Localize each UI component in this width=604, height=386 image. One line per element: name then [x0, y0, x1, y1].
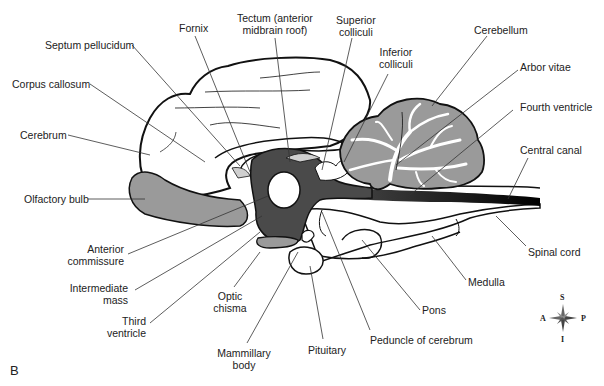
brainstem-outline: [300, 204, 540, 262]
label-olfactory-bulb: Olfactory bulb: [24, 193, 89, 205]
label-optic-chisma: Optic chisma: [212, 290, 248, 314]
pituitary: [289, 247, 323, 274]
label-mammillary-body: Mammillary body: [214, 347, 274, 371]
label-fornix: Fornix: [179, 22, 208, 34]
compass-a: A: [540, 314, 546, 323]
label-cerebellum: Cerebellum: [474, 24, 528, 36]
label-medulla: Medulla: [468, 276, 505, 288]
label-inferior-colliculi: Inferior colliculi: [379, 46, 413, 70]
compass-s: S: [560, 293, 564, 302]
compass-p: P: [581, 314, 586, 323]
label-superior-colliculi: Superior colliculi: [336, 14, 376, 38]
label-fourth-ventricle: Fourth ventricle: [520, 101, 592, 113]
label-arbor-vitae: Arbor vitae: [520, 61, 571, 73]
intermediate-mass: [268, 172, 300, 208]
label-septum-pellucidum: Septum pellucidum: [45, 39, 134, 51]
label-third-ventricle: Third ventricle: [90, 315, 146, 339]
label-anterior-commissure: Anterior commissure: [64, 243, 124, 267]
label-central-canal: Central canal: [520, 144, 582, 156]
label-spinal-cord: Spinal cord: [528, 246, 581, 258]
panel-label: B: [10, 363, 19, 378]
label-intermediate-mass: Intermediate mass: [60, 282, 128, 306]
label-tectum: Tectum (anterior midbrain roof): [237, 12, 313, 36]
label-pituitary: Pituitary: [308, 344, 346, 356]
label-cerebrum: Cerebrum: [20, 129, 67, 141]
label-pons: Pons: [422, 304, 446, 316]
label-corpus-callosum: Corpus callosum: [12, 78, 90, 90]
compass-rose-icon: [549, 304, 577, 332]
compass-i: I: [561, 335, 564, 344]
optic-chiasma: [257, 237, 298, 248]
label-peduncle: Peduncle of cerebrum: [370, 334, 473, 346]
